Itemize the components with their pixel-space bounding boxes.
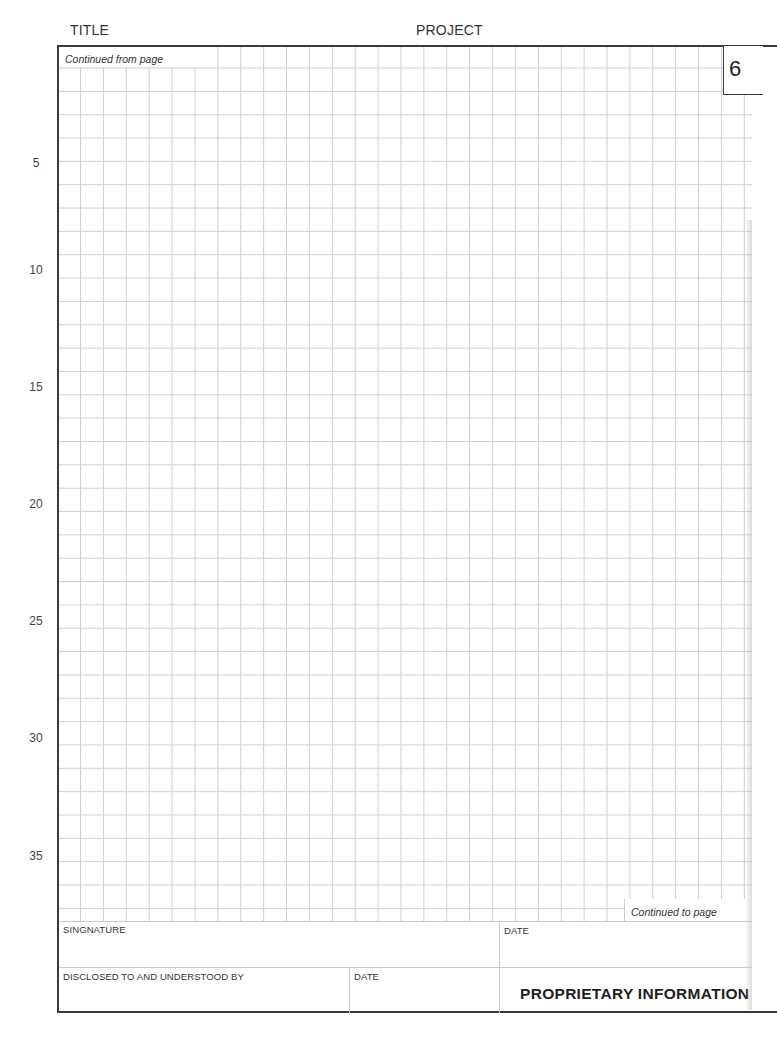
page-number: 6 xyxy=(729,56,741,81)
row-number-20: 20 xyxy=(20,497,52,511)
footer-middle-divider xyxy=(59,967,752,968)
signature-date-field[interactable]: DATE xyxy=(504,925,529,936)
proprietary-information-label: PROPRIETARY INFORMATION xyxy=(520,985,749,1003)
signature-field[interactable]: SINGNATURE xyxy=(63,924,126,935)
page-edge-shadow xyxy=(745,220,752,1010)
row-number-5: 5 xyxy=(20,156,52,170)
disclosed-date-field[interactable]: DATE xyxy=(354,971,379,982)
signature-date-label: DATE xyxy=(504,925,529,936)
signature-label: SINGNATURE xyxy=(63,924,126,935)
row-number-15: 15 xyxy=(20,380,52,394)
disclosed-date-label: DATE xyxy=(354,971,379,982)
continued-to-label: Continued to page xyxy=(624,899,752,921)
row-number-25: 25 xyxy=(20,614,52,628)
footer-vertical-divider-right xyxy=(499,921,500,1013)
row-number-35: 35 xyxy=(20,849,52,863)
page-number-box: 6 xyxy=(723,46,763,95)
continued-from-label: Continued from page xyxy=(59,47,169,67)
disclosed-label: DISCLOSED TO AND UNDERSTOOD BY xyxy=(63,971,244,982)
row-number-30: 30 xyxy=(20,731,52,745)
signature-block: SINGNATURE DATE DISCLOSED TO AND UNDERST… xyxy=(59,921,752,1011)
row-number-10: 10 xyxy=(20,263,52,277)
footer-top-divider xyxy=(59,921,752,922)
project-label: PROJECT xyxy=(416,22,483,38)
disclosed-field[interactable]: DISCLOSED TO AND UNDERSTOOD BY xyxy=(63,971,244,982)
title-label: TITLE xyxy=(70,22,109,38)
footer-vertical-divider-left xyxy=(349,967,350,1013)
page-frame xyxy=(57,45,777,1013)
